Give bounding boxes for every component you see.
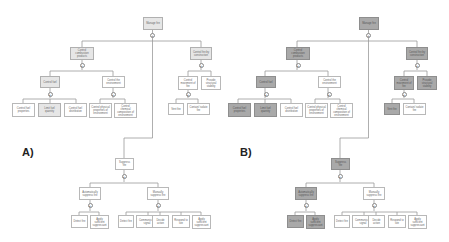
node-control-environment[interactable]: Control the environment xyxy=(318,76,341,88)
connector-lines xyxy=(0,0,449,242)
node-manual-suppress[interactable]: Manually suppress fire xyxy=(147,187,169,200)
node-suppress-fire[interactable]: Suppress fire xyxy=(115,158,134,170)
node-fuel-distribution[interactable]: Control fuel distribution xyxy=(280,103,303,117)
node-auto-detect[interactable]: Detect fire xyxy=(71,215,88,228)
node-structural-stability[interactable]: Provide structural stability xyxy=(417,76,437,90)
node-env-chemical[interactable]: Control chemical composition of environm… xyxy=(114,103,137,118)
node-suppress-fire[interactable]: Suppress fire xyxy=(331,158,350,170)
panel-label-a: A) xyxy=(22,146,34,158)
node-auto-suppress[interactable]: Automatically suppress fire xyxy=(79,187,101,200)
node-env-chemical[interactable]: Control chemical composition of environm… xyxy=(330,103,353,118)
node-manage-fire[interactable]: Manage fire xyxy=(143,17,163,30)
and-gate-icon: + xyxy=(48,92,53,97)
node-fuel-properties[interactable]: Control fuel properties xyxy=(12,103,35,117)
node-control-combustion[interactable]: Control combustion products xyxy=(286,47,310,60)
and-gate-icon: + xyxy=(156,203,161,208)
or-gate-icon: + xyxy=(338,174,343,179)
node-man-apply[interactable]: Apply sufficient suppressant xyxy=(408,215,427,229)
node-control-by-construction[interactable]: Control fire by construction xyxy=(190,47,212,60)
and-gate-icon: + xyxy=(327,92,332,97)
and-gate-icon: + xyxy=(264,92,269,97)
node-auto-suppress[interactable]: Automatically suppress fire xyxy=(295,187,317,200)
node-fuel-distribution[interactable]: Control fuel distribution xyxy=(64,103,87,117)
panel-label-b: B) xyxy=(240,146,252,158)
node-vent-fire[interactable]: Vent fire xyxy=(168,103,184,115)
node-control-movement[interactable]: Control movement of fire xyxy=(178,76,198,90)
node-control-fuel[interactable]: Control fuel xyxy=(40,76,60,88)
node-limit-fuel[interactable]: Limit fuel quantity xyxy=(38,103,61,117)
node-auto-apply[interactable]: Apply sufficient suppressant xyxy=(90,215,109,229)
node-control-movement[interactable]: Control movement of fire xyxy=(394,76,414,90)
or-gate-icon: + xyxy=(415,63,420,68)
and-gate-icon: + xyxy=(372,203,377,208)
node-vent-fire[interactable]: Vent fire xyxy=(384,103,400,115)
node-contain-fire[interactable]: Contain/ isolate fire xyxy=(403,103,426,115)
and-gate-icon: + xyxy=(296,63,301,68)
node-man-decide[interactable]: Decide action xyxy=(152,215,169,228)
node-man-detect[interactable]: Detect fire xyxy=(334,215,350,228)
node-control-by-construction[interactable]: Control fire by construction xyxy=(406,47,428,60)
or-gate-icon: + xyxy=(402,92,407,97)
and-gate-icon: + xyxy=(80,63,85,68)
or-gate-icon: + xyxy=(199,63,204,68)
node-man-respond[interactable]: Respond to site xyxy=(388,215,406,228)
node-structural-stability[interactable]: Provide structural stability xyxy=(201,76,221,90)
node-man-apply[interactable]: Apply sufficient suppressant xyxy=(192,215,211,229)
and-gate-icon: + xyxy=(88,203,93,208)
node-man-detect[interactable]: Detect fire xyxy=(118,215,134,228)
or-gate-icon: + xyxy=(122,174,127,179)
node-man-decide[interactable]: Decide action xyxy=(368,215,385,228)
node-auto-detect[interactable]: Detect fire xyxy=(287,215,304,228)
and-gate-icon: + xyxy=(304,203,309,208)
node-manage-fire[interactable]: Manage fire xyxy=(359,17,379,30)
node-man-respond[interactable]: Respond to site xyxy=(172,215,190,228)
and-gate-icon: + xyxy=(366,33,371,38)
node-env-physical[interactable]: Control physical properties of environme… xyxy=(305,103,328,118)
node-contain-fire[interactable]: Contain/ isolate fire xyxy=(187,103,210,115)
node-manual-suppress[interactable]: Manually suppress fire xyxy=(363,187,385,200)
node-auto-apply[interactable]: Apply sufficient suppressant xyxy=(306,215,325,229)
node-control-environment[interactable]: Control the environment xyxy=(102,76,125,88)
node-control-fuel[interactable]: Control fuel xyxy=(256,76,276,88)
and-gate-icon: + xyxy=(150,33,155,38)
node-control-combustion[interactable]: Control combustion products xyxy=(70,47,94,60)
or-gate-icon: + xyxy=(186,92,191,97)
node-env-physical[interactable]: Control physical properties of environme… xyxy=(89,103,112,118)
node-fuel-properties[interactable]: Control fuel properties xyxy=(228,103,251,117)
node-limit-fuel[interactable]: Limit fuel quantity xyxy=(254,103,277,117)
and-gate-icon: + xyxy=(111,92,116,97)
